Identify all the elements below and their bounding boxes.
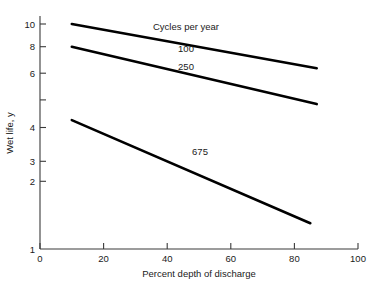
series-label-100: 100 — [178, 43, 194, 54]
x-tick-label-0: 0 — [37, 253, 42, 264]
x-axis-title: Percent depth of discharge — [142, 268, 256, 279]
x-tick-label-40: 40 — [162, 253, 173, 264]
legend-title: Cycles per year — [153, 21, 219, 32]
y-tick-label-10: 10 — [24, 19, 35, 30]
y-tick-label-8: 8 — [30, 41, 35, 52]
series-label-675: 675 — [192, 146, 208, 157]
x-tick-label-20: 20 — [98, 253, 109, 264]
y-tick-label-4: 4 — [30, 122, 35, 133]
y-tick-label-3: 3 — [30, 156, 35, 167]
y-axis-title: Wet life, y — [4, 112, 15, 154]
x-tick-label-80: 80 — [289, 253, 300, 264]
chart-figure: 10 8 6 4 3 2 1 0 20 40 60 80 100 Percent… — [0, 0, 380, 283]
y-tick-label-1: 1 — [30, 244, 35, 255]
x-tick-label-100: 100 — [350, 253, 366, 264]
semilog-line-chart: 10 8 6 4 3 2 1 0 20 40 60 80 100 Percent… — [0, 0, 380, 283]
y-tick-label-6: 6 — [30, 68, 35, 79]
series-label-250: 250 — [178, 61, 194, 72]
y-tick-label-2: 2 — [30, 176, 35, 187]
x-tick-label-60: 60 — [226, 253, 237, 264]
